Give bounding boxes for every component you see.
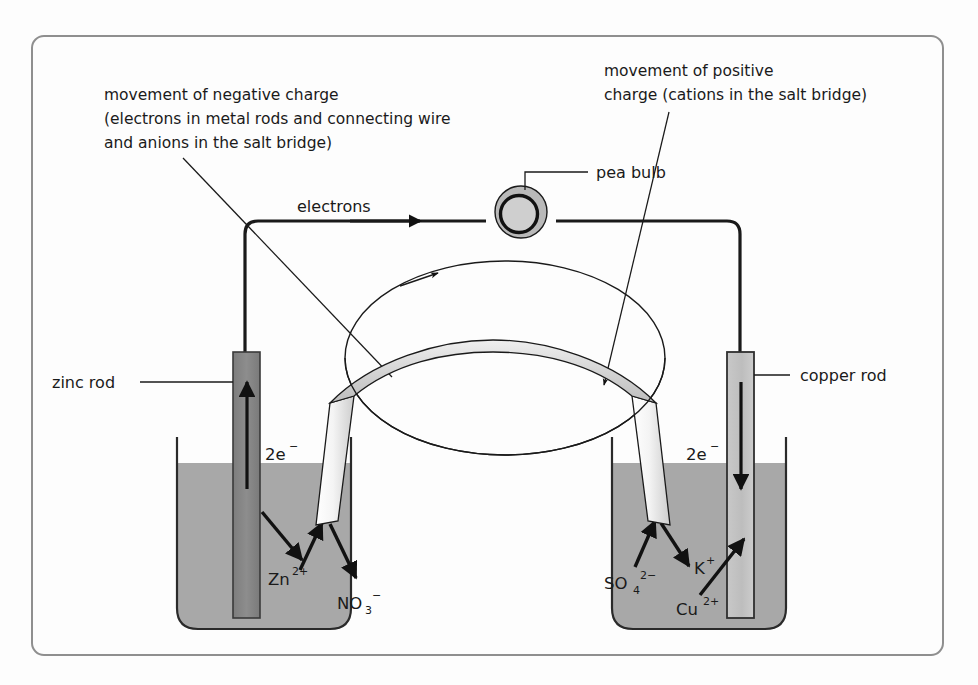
no3-ion-subscript: 3 bbox=[365, 604, 372, 617]
positive-charge-line2: charge (cations in the salt bridge) bbox=[604, 86, 867, 104]
left-electron-label-base: 2e bbox=[265, 445, 286, 464]
electrons-label: electrons bbox=[297, 197, 371, 216]
pea-bulb-label: pea bulb bbox=[596, 163, 666, 182]
k-ion-base: K bbox=[694, 559, 706, 578]
so4-ion-superscript: 2− bbox=[640, 569, 656, 582]
galvanic-cell-diagram: movement of negative charge (electrons i… bbox=[0, 0, 978, 685]
no3-ion-superscript: − bbox=[372, 589, 381, 602]
pea-bulb-glass bbox=[501, 196, 538, 233]
zn-ion-base: Zn bbox=[268, 570, 290, 589]
zinc-rod-label: zinc rod bbox=[52, 373, 115, 392]
no3-ion-base: NO bbox=[337, 594, 362, 613]
right-electron-label-superscript: − bbox=[710, 440, 719, 453]
k-ion-superscript: + bbox=[706, 554, 715, 567]
right-beaker-solution bbox=[612, 463, 786, 629]
negative-charge-line2: (electrons in metal rods and connecting … bbox=[104, 110, 451, 128]
cu-ion-base: Cu bbox=[676, 600, 698, 619]
negative-charge-line1: movement of negative charge bbox=[104, 86, 339, 104]
left-electron-label-superscript: − bbox=[289, 440, 298, 453]
copper-rod-label: copper rod bbox=[800, 366, 887, 385]
so4-ion-base: SO bbox=[604, 574, 627, 593]
negative-charge-line3: and anions in the salt bridge) bbox=[104, 134, 332, 152]
positive-charge-line1: movement of positive bbox=[604, 62, 773, 80]
cu-ion-superscript: 2+ bbox=[703, 595, 719, 608]
so4-ion-subscript: 4 bbox=[633, 584, 640, 597]
right-electron-label-base: 2e bbox=[686, 445, 707, 464]
diagram-stage: movement of negative charge (electrons i… bbox=[0, 0, 978, 685]
